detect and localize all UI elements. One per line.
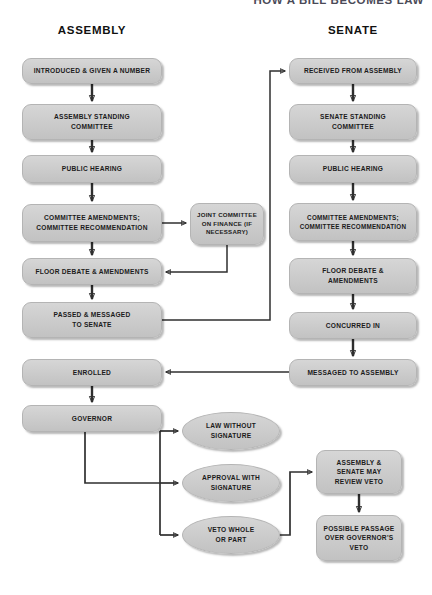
node-assembly-floor-debate-label: FLOOR DEBATE & AMENDMENTS — [27, 267, 157, 277]
node-senate-standing-committee[interactable]: SENATE STANDINGCOMMITTEE — [289, 104, 417, 140]
node-assembly-committee-amendments[interactable]: COMMITTEE AMENDMENTS;COMMITTEE RECOMMEND… — [22, 204, 162, 242]
flowchart-canvas: HOW A BILL BECOMES LAW ASSEMBLY SENATE — [0, 0, 432, 595]
node-assembly-standing-committee[interactable]: ASSEMBLY STANDINGCOMMITTEE — [22, 104, 162, 140]
node-introduced-label: INTRODUCED & GIVEN A NUMBER — [27, 66, 157, 76]
edge-veto-to-review-veto — [278, 472, 312, 535]
node-concurred-in-label: CONCURRED IN — [294, 321, 412, 331]
node-assembly-standing-committee-label: ASSEMBLY STANDINGCOMMITTEE — [27, 112, 157, 131]
node-received-from-assembly-label: RECEIVED FROM ASSEMBLY — [294, 66, 412, 76]
node-assembly-floor-debate[interactable]: FLOOR DEBATE & AMENDMENTS — [22, 258, 162, 285]
node-introduced[interactable]: INTRODUCED & GIVEN A NUMBER — [22, 58, 162, 84]
node-possible-passage-over-governors-veto-label: POSSIBLE PASSAGEOVER GOVERNOR'SVETO — [321, 524, 397, 553]
node-law-without-signature[interactable]: LAW WITHOUTSIGNATURE — [182, 412, 280, 450]
node-assembly-public-hearing-label: PUBLIC HEARING — [27, 164, 157, 174]
node-possible-passage-over-governors-veto[interactable]: POSSIBLE PASSAGEOVER GOVERNOR'SVETO — [316, 515, 402, 561]
node-joint-committee-on-finance-label: JOINT COMMITTEEON FINANCE (IFNECESSARY) — [195, 211, 259, 237]
node-passed-and-messaged-to-senate-label: PASSED & MESSAGEDTO SENATE — [27, 310, 157, 329]
node-governor[interactable]: GOVERNOR — [22, 405, 162, 432]
node-senate-standing-committee-label: SENATE STANDINGCOMMITTEE — [294, 112, 412, 131]
connector-layer — [0, 0, 432, 595]
node-senate-floor-debate[interactable]: FLOOR DEBATE &AMENDMENTS — [289, 258, 417, 294]
node-senate-committee-amendments-label: COMMITTEE AMENDMENTS;COMMITTEE RECOMMEND… — [294, 213, 412, 231]
node-assembly-senate-may-review-veto-label: ASSEMBLY &SENATE MAYREVIEW VETO — [321, 458, 397, 487]
node-passed-and-messaged-to-senate[interactable]: PASSED & MESSAGEDTO SENATE — [22, 302, 162, 338]
node-enrolled[interactable]: ENROLLED — [22, 359, 162, 386]
node-senate-floor-debate-label: FLOOR DEBATE &AMENDMENTS — [294, 266, 412, 285]
node-law-without-signature-label: LAW WITHOUTSIGNATURE — [187, 421, 275, 440]
node-senate-public-hearing[interactable]: PUBLIC HEARING — [289, 155, 417, 183]
node-assembly-public-hearing[interactable]: PUBLIC HEARING — [22, 155, 162, 183]
node-enrolled-label: ENROLLED — [27, 368, 157, 378]
node-approval-with-signature[interactable]: APPROVAL WITHSIGNATURE — [182, 464, 280, 502]
node-veto-whole-or-part-label: VETO WHOLEOR PART — [187, 525, 275, 544]
node-senate-committee-amendments[interactable]: COMMITTEE AMENDMENTS;COMMITTEE RECOMMEND… — [289, 203, 417, 241]
node-governor-label: GOVERNOR — [27, 414, 157, 424]
node-messaged-to-assembly-label: MESSAGED TO ASSEMBLY — [294, 368, 412, 378]
edge-governor-trunk — [85, 432, 160, 483]
node-approval-with-signature-label: APPROVAL WITHSIGNATURE — [187, 473, 275, 492]
node-joint-committee-on-finance[interactable]: JOINT COMMITTEEON FINANCE (IFNECESSARY) — [190, 203, 264, 245]
node-received-from-assembly[interactable]: RECEIVED FROM ASSEMBLY — [289, 58, 417, 84]
node-messaged-to-assembly[interactable]: MESSAGED TO ASSEMBLY — [289, 359, 417, 386]
node-assembly-senate-may-review-veto[interactable]: ASSEMBLY &SENATE MAYREVIEW VETO — [316, 450, 402, 494]
edge-joint-finance-to-asm-floor — [166, 245, 227, 272]
edge-passed-senate-to-sen-received — [162, 71, 285, 320]
node-senate-public-hearing-label: PUBLIC HEARING — [294, 164, 412, 174]
node-concurred-in[interactable]: CONCURRED IN — [289, 312, 417, 339]
node-assembly-committee-amendments-label: COMMITTEE AMENDMENTS;COMMITTEE RECOMMEND… — [27, 213, 157, 232]
node-veto-whole-or-part[interactable]: VETO WHOLEOR PART — [182, 516, 280, 554]
